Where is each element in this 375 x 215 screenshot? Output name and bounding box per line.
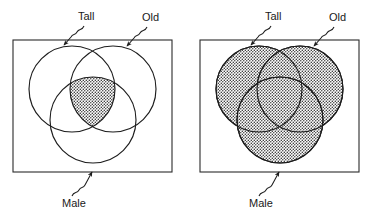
union-panel: Tall Old Male [200,10,359,209]
venn-diagram-canvas: Tall Old Male Tall Old Male [0,0,375,215]
set-label-old-right: Old [329,11,346,23]
set-label-tall-right: Tall [265,10,282,22]
set-label-male-right: Male [249,197,273,209]
shaded-intersection-left [13,40,172,172]
set-label-old-left: Old [142,11,159,23]
set-label-tall-left: Tall [78,10,95,22]
venn-figure: Tall Old Male Tall Old Male [0,0,375,215]
leader-line-old-left [127,27,147,46]
leader-line-male-right [259,172,279,196]
leader-line-tall-right [251,26,271,45]
intersection-panel: Tall Old Male [13,10,172,209]
leader-line-old-right [314,27,334,46]
set-label-male-left: Male [62,197,86,209]
leader-line-tall-left [64,26,84,45]
leader-line-male-left [72,172,92,196]
